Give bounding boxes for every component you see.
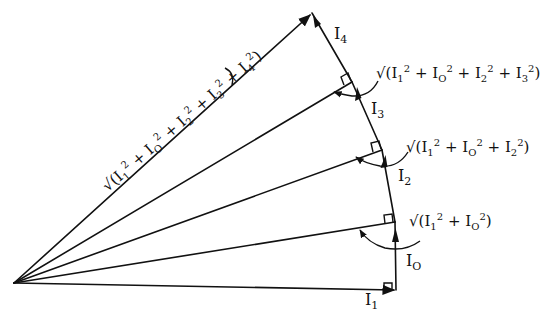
label-I0: IO [406,253,421,272]
label-I2-sub: 2 [404,175,411,188]
resultant-2-line [14,150,382,283]
label-I0-sub: O [412,260,421,273]
vector-I1 [14,283,394,290]
label-I2: I2 [398,168,411,187]
sqrt-symbol: √( [406,138,421,156]
formula-resultant-3: √(I12 + IO2 + I22 + I32) [376,66,540,81]
segment-arrows [313,15,399,242]
label-I4-sub: 4 [340,33,347,46]
label-I4: I4 [334,26,347,45]
arrow-I0 [392,228,399,242]
angle-arc-1 [360,230,420,249]
label-I1: I1 [365,292,378,311]
formula-resultant-1: √(I12 + IO2) [409,214,492,229]
label-I1-sub: 1 [371,299,378,312]
sqrt-symbol: √( [409,212,424,230]
label-I3: I3 [371,101,384,120]
formula-resultant-2: √(I12 + IO2 + I22) [406,140,529,155]
sqrt-symbol: √( [376,64,391,82]
right-angle-a [384,283,392,290]
label-I3-sub: 3 [377,108,384,121]
